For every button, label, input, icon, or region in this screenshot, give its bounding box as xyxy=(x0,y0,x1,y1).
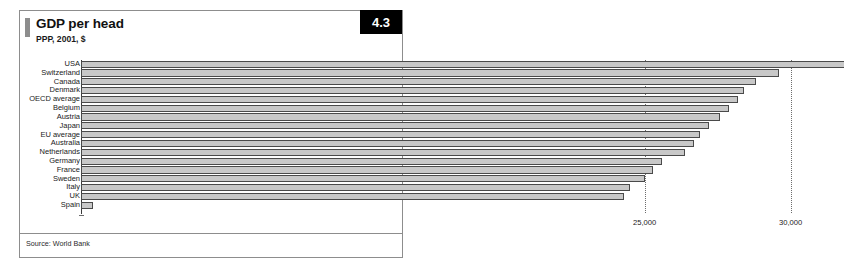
bar xyxy=(81,193,624,200)
title-accent-bar xyxy=(25,18,30,37)
bar xyxy=(81,105,729,112)
bar xyxy=(81,69,779,76)
bar-category-label: Spain xyxy=(0,201,80,210)
chart-subtitle: PPP, 2001, $ xyxy=(36,34,86,44)
origin-tick-mark xyxy=(79,215,84,216)
page-title: GDP per head xyxy=(36,16,124,31)
bar xyxy=(81,184,630,191)
bar xyxy=(81,122,709,129)
bar xyxy=(81,202,93,209)
bar xyxy=(81,158,662,165)
bar xyxy=(81,113,720,120)
bar-row: Spain xyxy=(20,201,404,210)
bar xyxy=(81,149,685,156)
bar xyxy=(81,131,700,138)
plot-area: USASwitzerlandCanadaDenmarkOECD averageB… xyxy=(20,55,404,235)
source-note: Source: World Bank xyxy=(26,239,90,248)
chart-figure: GDP per head PPP, 2001, $ 4.3 USASwitzer… xyxy=(19,10,403,258)
chart-header: GDP per head PPP, 2001, $ 4.3 xyxy=(20,11,402,55)
bar xyxy=(81,96,738,103)
bar xyxy=(81,166,653,173)
footer-divider xyxy=(20,233,402,234)
bar-category-label: Italy xyxy=(0,183,80,192)
x-tick-label: 25,000 xyxy=(633,218,656,227)
bar xyxy=(81,87,744,94)
gridline-30000 xyxy=(791,60,792,213)
bar xyxy=(81,140,694,147)
bars-group: USASwitzerlandCanadaDenmarkOECD averageB… xyxy=(20,60,404,210)
bar xyxy=(81,78,756,85)
figure-number-badge: 4.3 xyxy=(360,10,402,34)
x-tick-label: 30,000 xyxy=(779,218,802,227)
bar xyxy=(81,61,844,68)
bar xyxy=(81,175,645,182)
